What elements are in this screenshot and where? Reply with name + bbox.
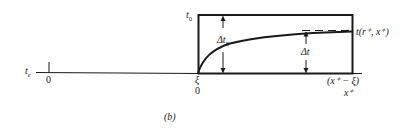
t0-sub: 0 <box>189 15 192 22</box>
x-minus-xi-label: (x⁺ − ξ) <box>327 76 359 86</box>
delta-t0-sub: 0 <box>226 40 229 47</box>
x-plus-label: x⁺ <box>344 88 353 98</box>
rect-top-label-t0: t0 <box>186 10 192 23</box>
delta-t0-main: Δt <box>217 34 226 45</box>
delta-t-label: Δt <box>301 47 310 57</box>
curve-end-label: t(r⁺, x⁺) <box>356 27 389 37</box>
origin-tick-label: 0 <box>46 75 51 85</box>
xi-zero-label: 0 <box>195 86 200 96</box>
axis-label-te: te <box>25 66 31 79</box>
figure-caption: (b) <box>164 112 176 122</box>
diagram-canvas <box>0 0 416 130</box>
xi-label: ξ <box>195 75 199 85</box>
delta-t0-label: Δt0 <box>217 35 229 48</box>
baseline-axis <box>36 73 200 74</box>
axis-label-te-sub: e <box>28 71 31 78</box>
